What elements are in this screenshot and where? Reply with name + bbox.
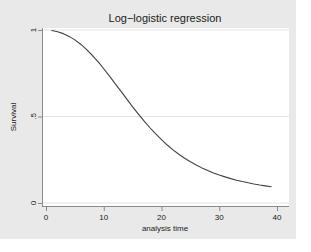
x-tick-label: 40: [273, 213, 282, 222]
y-axis-label: Survival: [9, 103, 18, 132]
y-tick-label: 0: [29, 200, 38, 205]
x-tick-label: 10: [99, 213, 108, 222]
survival-curve-line: [52, 31, 271, 187]
y-axis-tick-labels: 0.51: [29, 27, 38, 205]
x-tick-label: 0: [44, 213, 49, 222]
y-tick-label: 1: [29, 27, 38, 32]
y-axis-ticks: [38, 31, 42, 204]
x-axis-ticks: [47, 207, 278, 211]
chart-title: Log−logistic regression: [109, 12, 222, 24]
x-axis-tick-labels: 010203040: [44, 213, 282, 222]
log-logistic-regression-chart: 0.51 010203040 Log−logistic regression a…: [0, 0, 311, 252]
x-tick-label: 20: [157, 213, 166, 222]
x-tick-label: 30: [215, 213, 224, 222]
x-axis-label: analysis time: [142, 224, 189, 233]
y-tick-label: .5: [29, 113, 38, 120]
gridlines: [42, 30, 289, 203]
